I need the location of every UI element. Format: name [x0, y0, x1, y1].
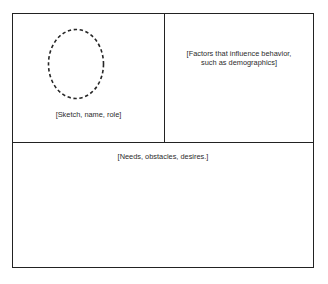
needs-panel[interactable]: [Needs, obstacles, desires.]	[13, 142, 313, 267]
factors-panel[interactable]: [Factors that influence behavior, such a…	[165, 14, 313, 142]
factors-panel-caption: [Factors that influence behavior, such a…	[175, 49, 303, 67]
needs-panel-caption: [Needs, obstacles, desires.]	[13, 152, 313, 161]
sketch-panel-caption: [Sketch, name, role]	[13, 110, 164, 119]
persona-template-frame: [Sketch, name, role] [Factors that influ…	[12, 13, 314, 268]
template-top-row: [Sketch, name, role] [Factors that influ…	[13, 14, 313, 142]
dashed-ellipse-placeholder-icon	[47, 28, 105, 100]
sketch-panel[interactable]: [Sketch, name, role]	[13, 14, 165, 142]
